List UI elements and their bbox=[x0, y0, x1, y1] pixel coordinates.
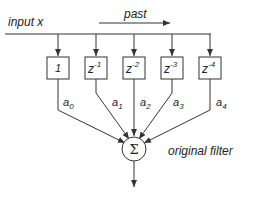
svg-text:1: 1 bbox=[55, 62, 61, 74]
past-label: past bbox=[123, 7, 147, 21]
fir-filter-diagram: input x past 1 a0 z-1 a1 z-2 a2 z-3 a3 z… bbox=[0, 0, 262, 198]
svg-text:a1: a1 bbox=[112, 96, 123, 111]
svg-text:a2: a2 bbox=[140, 96, 151, 111]
svg-text:a4: a4 bbox=[216, 96, 227, 111]
svg-text:a3: a3 bbox=[173, 96, 184, 111]
tap-0: 1 a0 bbox=[47, 34, 125, 143]
input-label: input x bbox=[8, 15, 44, 29]
tap-4: z-4 a4 bbox=[144, 34, 227, 143]
svg-text:a0: a0 bbox=[63, 96, 74, 111]
sum-symbol-icon: Σ bbox=[129, 142, 138, 157]
tap-2: z-2 a2 bbox=[123, 34, 151, 136]
tap-1: z-1 a1 bbox=[85, 34, 129, 139]
tap-3: z-3 a3 bbox=[139, 34, 184, 139]
filter-label: original filter bbox=[168, 144, 234, 158]
